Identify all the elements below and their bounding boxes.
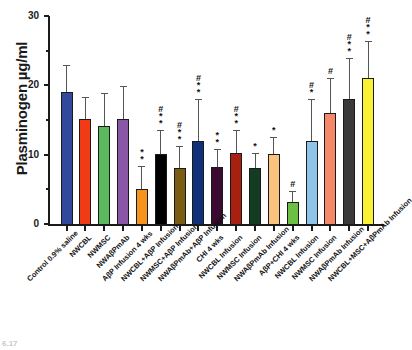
significance-marker: # * *: [152, 106, 170, 127]
significance-marker: # *: [303, 82, 321, 96]
error-bar: [292, 191, 293, 202]
y-minor-tick-mark: [46, 188, 49, 190]
x-tick-mark: [367, 226, 369, 231]
significance-marker: #: [321, 68, 339, 75]
error-bar-cap: [157, 130, 164, 131]
error-bar-cap: [214, 149, 221, 150]
error-bar-cap: [176, 146, 183, 147]
y-tick-mark: [44, 223, 49, 225]
error-bar: [255, 153, 256, 168]
bar: [249, 168, 261, 225]
x-tick-mark: [311, 226, 313, 231]
y-minor-tick-mark: [46, 50, 49, 52]
bar: [324, 113, 336, 225]
error-bar: [160, 130, 161, 154]
x-tick-mark: [103, 226, 105, 231]
x-tick-mark: [141, 226, 143, 231]
x-tick-mark: [66, 226, 68, 231]
bar: [61, 92, 73, 225]
bar: [343, 99, 355, 225]
significance-marker: *: [246, 143, 264, 150]
error-bar-cap: [82, 97, 89, 98]
error-bar: [104, 93, 105, 126]
error-bar: [123, 86, 124, 119]
error-bar-cap: [63, 65, 70, 66]
bar: [79, 119, 91, 225]
error-bar: [311, 99, 312, 141]
bar: [136, 189, 148, 225]
error-bar: [198, 99, 199, 141]
significance-marker: # * *: [340, 34, 358, 55]
y-tick-mark: [44, 84, 49, 86]
bar: [287, 202, 299, 225]
error-bar: [85, 97, 86, 118]
error-bar-cap: [289, 191, 296, 192]
significance-marker: * *: [208, 132, 226, 146]
x-tick-mark: [273, 226, 275, 231]
corner-note: 6.17: [2, 339, 18, 348]
error-bar-cap: [138, 166, 145, 167]
significance-marker: * *: [133, 149, 151, 163]
y-minor-tick-mark: [46, 119, 49, 121]
y-tick-label: 10: [17, 149, 39, 160]
error-bar-cap: [120, 86, 127, 87]
bar: [174, 168, 186, 225]
error-bar-cap: [195, 99, 202, 100]
error-bar: [66, 65, 67, 93]
bar: [306, 141, 318, 225]
x-tick-mark: [329, 226, 331, 231]
bar: [155, 154, 167, 225]
significance-marker: # * *: [359, 17, 377, 38]
error-bar: [179, 146, 180, 167]
error-bar-cap: [101, 93, 108, 94]
significance-marker: # * *: [227, 106, 245, 127]
significance-marker: *: [265, 127, 283, 134]
bar: [230, 153, 242, 225]
x-tick-mark: [254, 226, 256, 231]
x-tick-mark: [292, 226, 294, 231]
error-bar-cap: [270, 137, 277, 138]
bar: [98, 126, 110, 225]
bar: [362, 78, 374, 225]
error-bar-cap: [327, 78, 334, 79]
bar: [192, 141, 204, 225]
error-bar-cap: [346, 58, 353, 59]
error-bar: [330, 78, 331, 113]
bar: [268, 154, 280, 225]
error-bar-cap: [233, 130, 240, 131]
error-bar: [217, 149, 218, 167]
error-bar-cap: [308, 99, 315, 100]
error-bar: [141, 166, 142, 188]
significance-marker: #: [284, 181, 302, 188]
y-tick-label: 0: [17, 218, 39, 229]
y-tick-label: 20: [17, 79, 39, 90]
plasminogen-bar-chart: Plasminogen µg/ml 0102030 * *# * *# * *#…: [0, 0, 412, 350]
error-bar: [368, 41, 369, 78]
x-tick-mark: [235, 226, 237, 231]
error-bar: [349, 58, 350, 100]
x-tick-mark: [160, 226, 162, 231]
error-bar-cap: [365, 41, 372, 42]
y-axis-label: Plasminogen µg/ml: [13, 9, 30, 209]
x-tick-mark: [122, 226, 124, 231]
error-bar-cap: [252, 153, 259, 154]
x-tick-mark: [348, 226, 350, 231]
y-tick-mark: [44, 15, 49, 17]
significance-marker: # * *: [189, 75, 207, 96]
error-bar: [273, 137, 274, 154]
error-bar: [236, 130, 237, 153]
significance-marker: # * *: [171, 122, 189, 143]
x-tick-mark: [84, 226, 86, 231]
y-tick-label: 30: [17, 10, 39, 21]
bar: [117, 119, 129, 225]
y-tick-mark: [44, 154, 49, 156]
